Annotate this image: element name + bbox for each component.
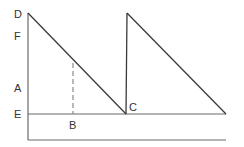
descent-d-to-c (28, 13, 126, 114)
vertical-rise-c (126, 13, 127, 114)
sawtooth-diagram: D F A E B C (0, 0, 244, 147)
label-b: B (69, 119, 76, 131)
label-a: A (14, 82, 22, 94)
descent-second (127, 13, 226, 114)
label-f: F (14, 30, 21, 42)
label-e: E (14, 108, 21, 120)
label-d: D (14, 8, 22, 20)
label-c: C (129, 101, 137, 113)
